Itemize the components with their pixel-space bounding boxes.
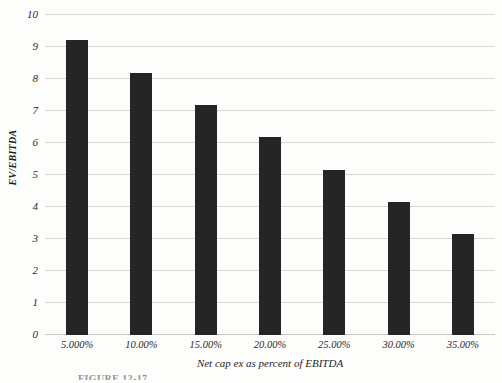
gridline-7	[45, 110, 495, 111]
x-tick-label: 5.000%	[45, 339, 109, 351]
bar	[130, 73, 152, 335]
bar	[195, 105, 217, 335]
gridline-9	[45, 46, 495, 47]
gridline-8	[45, 78, 495, 79]
x-axis-title: Net cap ex as percent of EBITDA	[45, 357, 495, 369]
bar	[259, 137, 281, 335]
bar	[66, 40, 88, 335]
figure-caption: FIGURE 12-17	[78, 373, 148, 383]
y-tick-label-5: 5	[10, 169, 38, 180]
x-tick-label: 15.00%	[174, 339, 238, 351]
y-tick-label-4: 4	[10, 201, 38, 212]
bar	[452, 234, 474, 335]
x-axis-tick-labels: 5.000%10.00%15.00%20.00%25.00%30.00%35.0…	[45, 339, 495, 353]
y-tick-label-6: 6	[10, 137, 38, 148]
y-tick-label-7: 7	[10, 105, 38, 116]
y-tick-label-1: 1	[10, 297, 38, 308]
y-axis-tick-labels: 012345678910	[8, 15, 38, 335]
x-tick-label: 30.00%	[367, 339, 431, 351]
x-tick-label: 35.00%	[431, 339, 495, 351]
y-tick-label-0: 0	[10, 329, 38, 340]
bar	[323, 170, 345, 335]
y-tick-label-8: 8	[10, 73, 38, 84]
bar-chart-figure: EV/EBITDA 012345678910 5.000%10.00%15.00…	[0, 0, 502, 383]
bar	[388, 202, 410, 335]
y-tick-label-9: 9	[10, 41, 38, 52]
gridline-10	[45, 14, 495, 15]
x-tick-label: 20.00%	[238, 339, 302, 351]
x-tick-label: 10.00%	[109, 339, 173, 351]
y-tick-label-3: 3	[10, 233, 38, 244]
x-tick-label: 25.00%	[302, 339, 366, 351]
y-tick-label-2: 2	[10, 265, 38, 276]
y-tick-label-10: 10	[10, 9, 38, 20]
plot-area	[45, 15, 495, 335]
